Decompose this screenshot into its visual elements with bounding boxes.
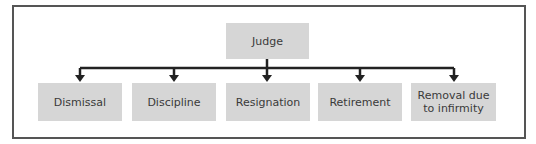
node-retirement: Retirement (318, 83, 402, 121)
node-label: Judge (252, 35, 283, 48)
node-judge: Judge (226, 23, 309, 59)
arrow-head-icon (169, 75, 179, 82)
node-label: Discipline (147, 96, 200, 109)
node-label-line-2: to infirmity (423, 102, 483, 115)
arrow-head-icon (262, 75, 272, 82)
arrow-head-icon (75, 75, 85, 82)
node-discipline: Discipline (132, 83, 216, 121)
node-resignation: Resignation (226, 83, 310, 121)
arrow-head-icon (355, 75, 365, 82)
arrow-head-icon (449, 75, 459, 82)
node-removal-due-to-infirmity: Removal due to infirmity (411, 83, 496, 121)
node-label: Dismissal (54, 96, 106, 109)
node-dismissal: Dismissal (38, 83, 122, 121)
node-label-line-1: Removal due (418, 89, 490, 102)
node-label: Resignation (236, 96, 300, 109)
node-label: Retirement (329, 96, 390, 109)
connector-lines (0, 0, 536, 144)
